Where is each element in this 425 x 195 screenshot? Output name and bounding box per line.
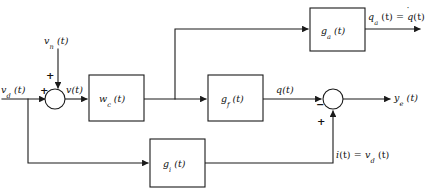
block-g-i-label: gi (t) — [163, 158, 185, 169]
label-q: q(t) — [276, 85, 294, 95]
sign-plus-vn: + — [46, 71, 54, 81]
summing-junction-output-circle[interactable] — [323, 89, 343, 109]
block-diagram-canvas: ga (t) wc (t) gf (t) gi (t) vn (t) vd (t… — [0, 0, 425, 195]
sign-plus-i: + — [317, 117, 325, 127]
block-w-c-label: wc (t) — [99, 93, 125, 104]
wire-layer — [0, 0, 425, 195]
label-v: v(t) — [66, 85, 83, 95]
label-qa-equals-qdot: qa (t) = ̇q(t) — [368, 12, 425, 22]
sign-plus-vd: + — [40, 86, 48, 96]
block-g-a-label: ga (t) — [321, 25, 345, 36]
label-vn: vn (t) — [44, 36, 68, 46]
label-ye: ye (t) — [394, 93, 418, 103]
sign-minus-q: − — [316, 100, 324, 110]
label-vd-input: vd (t) — [1, 85, 25, 95]
label-i-equals-vd: i(t) = vd (t) — [336, 150, 389, 160]
block-g-f-label: gf (t) — [221, 93, 244, 104]
